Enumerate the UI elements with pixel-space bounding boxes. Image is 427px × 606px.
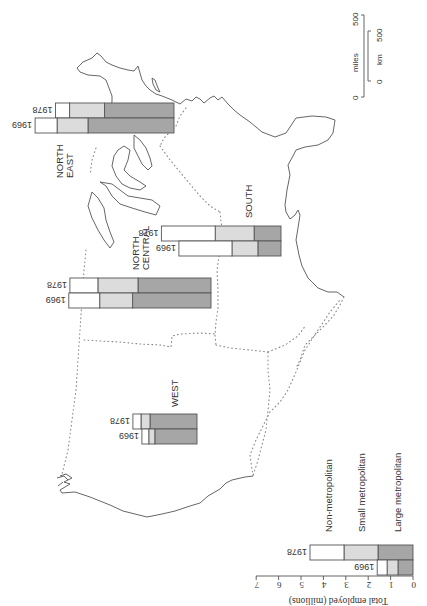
bar-segment-non [70, 278, 98, 293]
bar-segment-non [310, 545, 344, 560]
bar-segment-small [98, 278, 138, 293]
region-label-south: SOUTH [243, 185, 254, 218]
axis-tick-label: 0 [411, 580, 416, 590]
mexico-border [250, 300, 340, 476]
bar-segment-small [57, 118, 88, 133]
axis-tick-label: 3 [344, 580, 349, 590]
bar-segment-non [35, 118, 57, 133]
km-500: 500 [375, 28, 384, 42]
bar-segment-non [377, 560, 387, 575]
year-label-1978: 1978 [138, 228, 158, 238]
axis-tick-label: 2 [367, 580, 372, 590]
bar-segment-non [161, 226, 215, 241]
employment-map-figure: NORTH EAST NORTH CENTRAL SOUTH WEST 1978… [0, 0, 427, 606]
west-south-boundary [253, 352, 270, 476]
bar-segment-small [70, 103, 105, 118]
bar-segment-large [398, 560, 413, 575]
pacific-coastline [60, 474, 253, 517]
maine-border [77, 53, 112, 102]
bar-segment-large [88, 118, 174, 133]
axis-ticks: 01234567 [254, 576, 416, 590]
year-label-1969: 1969 [354, 562, 374, 572]
bar-segment-large [150, 414, 197, 429]
lake-michigan-superior [100, 182, 160, 215]
year-label-1978: 1978 [110, 416, 130, 426]
km-label: km [375, 54, 384, 65]
year-label-1969: 1969 [119, 431, 139, 441]
year-label-1978: 1978 [287, 547, 307, 557]
bar-segment-small [215, 226, 254, 241]
gulf-coast-boundary [296, 297, 344, 368]
year-label-1978: 1978 [47, 280, 67, 290]
legend-label-large-metropolitan: Large metropolitan [392, 453, 403, 532]
miles-label: miles [351, 53, 360, 72]
bar-segment-non [142, 429, 149, 444]
bar-segment-large [133, 293, 211, 308]
legend-label-non-metropolitan: Non-metropolitan [323, 459, 334, 532]
bar-segment-large [254, 226, 281, 241]
axis-tick-label: 1 [389, 580, 394, 590]
legend-label-small-metropolitan: Small metropolitan [356, 453, 367, 532]
bar-segment-small [100, 293, 133, 308]
texas-boundary [268, 325, 306, 352]
bar-segment-large [138, 278, 211, 293]
axis-tick-label: 7 [254, 580, 259, 590]
year-label-1969: 1969 [12, 120, 32, 130]
northcentral-west-boundary [84, 333, 268, 352]
year-label-1978: 1978 [32, 105, 52, 115]
bar-segment-large [155, 429, 197, 444]
legend: Non-metropolitan Small metropolitan Larg… [254, 453, 416, 606]
bar-segment-small [387, 560, 398, 575]
lake-ontario-erie [134, 135, 152, 170]
axis-title: Total employed (millions) [289, 595, 388, 606]
km-zero: 0 [375, 79, 384, 84]
miles-scale-line [361, 15, 364, 97]
northeast-northcentral-boundary [160, 146, 220, 212]
km-scale-line [368, 31, 371, 81]
year-label-1969: 1969 [156, 243, 176, 253]
axis-tick-label: 4 [321, 580, 326, 590]
bar-segment-non [179, 241, 232, 256]
year-label-1969: 1969 [46, 295, 66, 305]
bar-segment-small [232, 241, 258, 256]
axis-tick-label: 5 [299, 580, 304, 590]
axis-tick-label: 6 [277, 580, 282, 590]
bar-segment-non [133, 414, 141, 429]
bar-segment-small [149, 429, 155, 444]
bar-segment-small [344, 545, 378, 560]
region-label-west: WEST [169, 379, 180, 407]
lake-huron [112, 146, 146, 190]
miles-zero: 0 [351, 95, 360, 100]
bar-segment-large [258, 241, 281, 256]
bar-segment-large [105, 103, 174, 118]
bar-segment-large [378, 545, 413, 560]
region-label-north-east: NORTH EAST [54, 142, 75, 178]
legend-axis: 01234567 Total employed (millions) [254, 576, 416, 606]
scale-bar: 0 miles 500 0 km 500 [351, 12, 384, 100]
bar-segment-non [56, 103, 70, 118]
lake-superior [88, 192, 114, 248]
bar-segment-small [141, 414, 150, 429]
lake-champlain [152, 78, 160, 92]
miles-500: 500 [351, 12, 360, 26]
bar-segment-non [69, 293, 100, 308]
